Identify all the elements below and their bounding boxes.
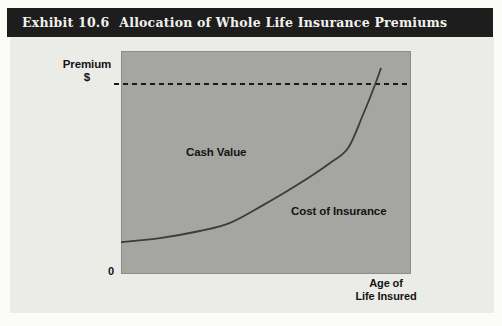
cost-of-insurance-label: Cost of Insurance bbox=[291, 205, 386, 218]
cash-value-label: Cash Value bbox=[186, 146, 246, 159]
exhibit-figure: Exhibit 10.6 Allocation of Whole Life In… bbox=[0, 0, 502, 326]
y-axis-label: Premium $ bbox=[58, 58, 116, 83]
exhibit-number: Exhibit 10.6 bbox=[22, 15, 109, 30]
x-axis-label-line2: Life Insured bbox=[340, 290, 432, 303]
x-axis-label-line1: Age of bbox=[340, 277, 432, 290]
x-axis-label: Age of Life Insured bbox=[340, 277, 432, 302]
plot-area bbox=[121, 51, 411, 274]
y-axis-label-line1: Premium bbox=[58, 58, 116, 71]
origin-label: 0 bbox=[105, 265, 117, 278]
exhibit-title: Allocation of Whole Life Insurance Premi… bbox=[119, 15, 447, 30]
exhibit-title-bar: Exhibit 10.6 Allocation of Whole Life In… bbox=[7, 8, 493, 37]
y-axis-label-line2: $ bbox=[58, 71, 116, 84]
